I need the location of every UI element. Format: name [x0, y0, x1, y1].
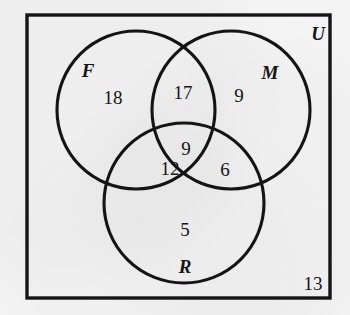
universe-label: U [311, 24, 325, 43]
set-label-m: M [262, 63, 279, 82]
region-count-m-and-r: 6 [220, 160, 230, 179]
set-circle-f [57, 31, 215, 189]
set-label-r: R [179, 257, 192, 276]
set-label-f: F [82, 61, 95, 80]
region-count-f-m-r: 9 [181, 139, 191, 158]
venn-diagram: U F M R 18 17 9 9 12 6 5 13 [0, 0, 350, 315]
region-count-f-and-r: 12 [161, 159, 180, 178]
region-count-outside: 13 [304, 274, 323, 293]
region-count-f-and-m: 17 [174, 83, 193, 102]
region-count-f-only: 18 [104, 88, 123, 107]
region-count-m-only: 9 [234, 86, 244, 105]
region-count-r-only: 5 [180, 220, 190, 239]
